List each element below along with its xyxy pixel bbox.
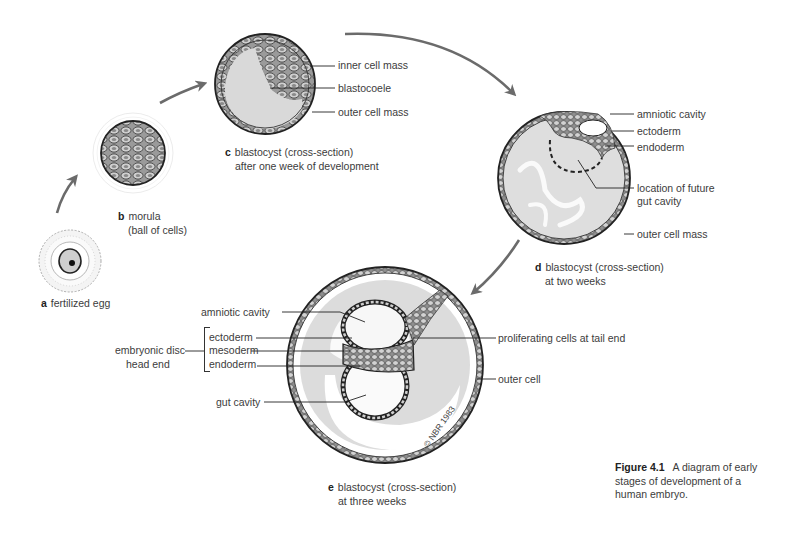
stage-letter: e [328, 481, 334, 493]
fertilized-egg-illustration [39, 230, 101, 292]
caption-line-3: human embryo. [615, 488, 785, 502]
caption-line-1: A diagram of early [673, 461, 758, 473]
embryo-development-diagram: © NBR 1983 [0, 0, 791, 540]
stage-letter: a [41, 297, 47, 309]
label-location-future-gut: location of future gut cavity [637, 182, 715, 208]
morula-illustration [93, 113, 173, 193]
stage-title: blastocyst (cross-section) [235, 146, 353, 158]
label-inner-cell-mass: inner cell mass [338, 59, 408, 72]
stage-letter: c [225, 146, 231, 158]
caption-stage-e: eblastocyst (cross-section) at three wee… [328, 481, 456, 508]
caption-stage-b: bmorula (ball of cells) [118, 210, 187, 237]
figure-caption: Figure 4.1A diagram of early stages of d… [615, 461, 785, 502]
stage-subtitle: after one week of development [225, 160, 379, 174]
label-mesoderm-e: mesoderm [209, 344, 259, 357]
label-amniotic-cavity-e: amniotic cavity [201, 306, 270, 319]
label-proliferating-cells: proliferating cells at tail end [498, 332, 625, 345]
stage-subtitle: (ball of cells) [118, 224, 187, 238]
label-head-end: head end [126, 358, 170, 371]
blastocyst-week1-illustration [215, 34, 335, 134]
caption-line-2: stages of development of a [615, 475, 785, 489]
label-ectoderm-e: ectoderm [209, 331, 253, 344]
label-ectoderm: ectoderm [637, 125, 681, 138]
stage-subtitle: at three weeks [328, 495, 456, 509]
caption-stage-a: afertilized egg [41, 297, 110, 311]
label-outer-cell-mass-d: outer cell mass [637, 228, 708, 241]
caption-stage-d: dblastocyst (cross-section) at two weeks [535, 261, 664, 288]
label-embryonic-disc: embryonic disc [115, 344, 185, 357]
label-amniotic-cavity: amniotic cavity [637, 108, 706, 121]
stage-title: blastocyst (cross-section) [338, 481, 456, 493]
stage-title: fertilized egg [51, 297, 111, 309]
stage-subtitle: at two weeks [535, 275, 664, 289]
figure-number: Figure 4.1 [615, 461, 665, 473]
arrow-b-to-c [160, 84, 203, 103]
stage-title: blastocyst (cross-section) [545, 261, 663, 273]
arrow-d-to-e [474, 240, 519, 292]
label-line-2: gut cavity [637, 195, 715, 208]
stage-title: morula [128, 210, 160, 222]
label-line-1: location of future [637, 182, 715, 195]
label-endoderm-e: endoderm [209, 358, 256, 371]
blastocyst-week2-illustration [498, 111, 634, 244]
label-blastocoele: blastocoele [338, 82, 391, 95]
arrow-a-to-b [57, 178, 75, 213]
label-outer-cell: outer cell [498, 373, 541, 386]
stage-letter: d [535, 261, 541, 273]
label-gut-cavity: gut cavity [216, 396, 260, 409]
caption-stage-c: cblastocyst (cross-section) after one we… [225, 146, 379, 173]
label-outer-cell-mass: outer cell mass [338, 106, 409, 119]
stage-letter: b [118, 210, 124, 222]
label-endoderm: endoderm [637, 141, 684, 154]
